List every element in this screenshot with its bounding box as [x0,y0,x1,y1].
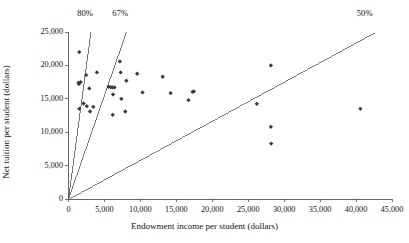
y-tick-label: 0 [59,195,63,203]
data-point [124,79,128,83]
data-point [111,92,115,96]
x-axis-title: Endowment income per student (dollars) [0,222,409,231]
data-point [95,70,99,74]
x-tick-label: 25,000 [237,206,260,214]
data-point [111,113,115,117]
x-tick-label: 10,000 [129,206,152,214]
data-point [119,97,123,101]
y-tick-label: 20,000 [40,61,63,69]
data-point [269,141,273,145]
data-point [269,63,273,67]
x-tick-label: 0 [66,206,70,214]
data-point [123,109,127,113]
reference-line-50 [69,32,376,199]
data-point [77,50,81,54]
data-point [88,109,92,113]
reference-line-label: 80% [77,9,93,18]
x-tick-label: 20,000 [201,206,224,214]
x-tick-label: 45,000 [381,206,404,214]
data-point [269,125,273,129]
data-point [140,90,144,94]
axes [65,32,392,202]
x-tick-label: 35,000 [309,206,332,214]
data-point [118,59,122,63]
data-point [168,91,172,95]
data-point [118,70,122,74]
x-tick-label: 30,000 [273,206,296,214]
scatter-plot-figure: 05,00010,00015,00020,00025,00030,00035,0… [0,0,409,243]
y-tick-label: 5,000 [45,161,63,169]
data-point [135,72,139,76]
y-tick-label: 25,000 [40,28,63,36]
data-point [255,102,259,106]
data-point [87,86,91,90]
data-point [112,85,116,89]
reference-line-67 [69,32,127,199]
reference-line-label: 50% [357,9,373,18]
y-tick-label: 10,000 [40,128,63,136]
data-point [85,104,89,108]
data-point [186,98,190,102]
y-axis-title: Net tuition per student (dollars) [2,32,11,212]
data-point [81,101,85,105]
data-point [161,75,165,79]
x-tick-label: 40,000 [345,206,368,214]
reference-line-label: 67% [112,9,128,18]
x-tick-label: 15,000 [165,206,188,214]
y-tick-label: 15,000 [40,95,63,103]
data-point [91,105,95,109]
x-tick-label: 5,000 [95,206,113,214]
reference-line-80 [69,32,91,199]
data-point [358,107,362,111]
data-points [76,50,362,146]
reference-lines [69,32,376,199]
